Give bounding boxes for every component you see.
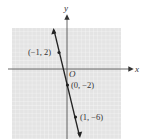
point-label-neg1-2: (−1, 2) <box>28 47 51 57</box>
point-label-0-neg2: (0, −2) <box>71 80 94 90</box>
point-neg1-2 <box>57 51 60 54</box>
y-axis-label: y <box>63 3 68 13</box>
origin-label: O <box>69 69 76 79</box>
point-1-neg6 <box>74 115 77 118</box>
coordinate-plane: x y O (−1, 2) (0, −2) (1, −6) <box>0 0 143 139</box>
point-label-1-neg6: (1, −6) <box>80 112 103 122</box>
x-axis-label: x <box>134 64 139 74</box>
point-0-neg2 <box>66 83 69 86</box>
